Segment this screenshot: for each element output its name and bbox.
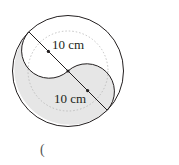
center-dot <box>66 69 69 72</box>
upper-radius-label: 10 cm <box>52 37 84 52</box>
upper-center-dot <box>47 50 50 53</box>
answer-bracket: ( <box>40 142 45 158</box>
lower-center-dot <box>86 89 89 92</box>
lower-radius-label: 10 cm <box>54 91 86 106</box>
geometry-figure: 10 cm 10 cm <box>0 0 179 165</box>
